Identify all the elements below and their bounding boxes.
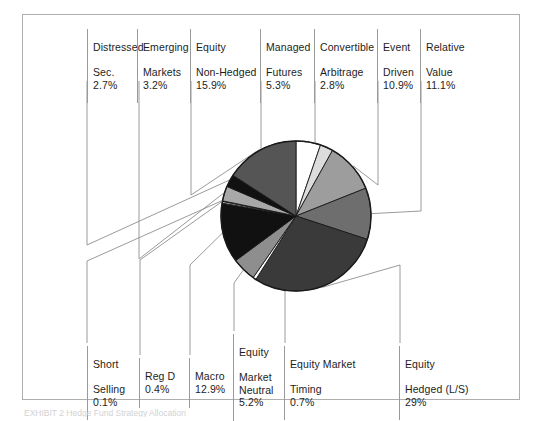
label-line2: Driven — [383, 66, 414, 78]
label-line2: Sec. — [93, 66, 114, 78]
label-line1: Managed — [266, 41, 310, 53]
label-line2: Markets — [143, 66, 181, 78]
label-equity-hedged-ls: Equity Hedged (L/S) 29% — [399, 346, 489, 420]
label-convertible-arbitrage: Convertible Arbitrage 2.8% — [314, 29, 386, 103]
label-percent: 29% — [405, 396, 489, 408]
label-line2: Hedged (L/S) — [405, 383, 469, 395]
label-line1: Equity Market — [290, 358, 356, 370]
leader-line — [234, 270, 243, 331]
label-emerging-markets: Emerging Markets 3.2% — [137, 29, 198, 103]
label-percent: 11.1% — [426, 79, 486, 91]
label-line2: Selling — [93, 383, 125, 395]
label-line2: Market Neutral — [239, 371, 274, 395]
leader-line — [140, 202, 221, 355]
label-line2: Timing — [290, 383, 322, 395]
label-equity-market-timing: Equity Market Timing 0.7% — [284, 346, 380, 420]
label-line2: Futures — [266, 66, 302, 78]
label-line1: Short — [93, 358, 119, 370]
label-line1: Convertible — [320, 41, 374, 53]
label-line1: Equity — [196, 41, 226, 53]
label-equity-market-neutral: Equity Market Neutral 5.2% — [233, 334, 291, 421]
leader-line — [87, 81, 229, 245]
leader-line — [87, 201, 222, 343]
label-line2: Arbitrage — [320, 66, 364, 78]
label-line2: Reg D — [145, 370, 175, 382]
label-line2: Macro — [195, 370, 225, 382]
leader-line — [190, 233, 222, 355]
label-relative-value: Relative Value 11.1% — [420, 29, 486, 103]
label-managed-futures: Managed Futures 5.3% — [260, 29, 322, 103]
label-line1: Equity — [239, 346, 269, 358]
label-line2: Non-Hedged — [196, 66, 257, 78]
label-line1: Event — [383, 41, 410, 53]
label-line2: Value — [426, 66, 453, 78]
label-line1: Equity — [405, 358, 435, 370]
label-percent: 0.7% — [290, 396, 380, 408]
figure-caption: EXHIBIT 2 Hedge Fund Strategy Allocation — [24, 408, 186, 417]
label-percent: 0.1% — [93, 396, 145, 408]
figure-frame: Distressed Sec. 2.7% Emerging Markets 3.… — [22, 14, 520, 400]
pie-slices — [221, 141, 371, 291]
label-percent: 0.4% — [145, 383, 195, 395]
label-reg-d: Reg D 0.4% — [139, 358, 195, 408]
label-line1: Emerging — [143, 41, 189, 53]
label-line1: Relative — [426, 41, 465, 53]
